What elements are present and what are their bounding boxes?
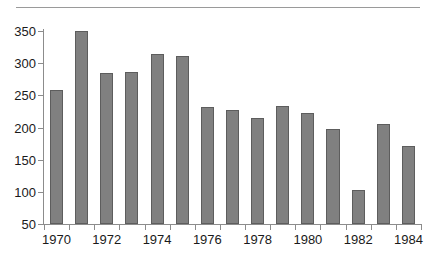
bar <box>352 190 365 224</box>
x-axis-tick <box>69 225 70 230</box>
bar <box>176 56 189 224</box>
x-axis-tick-label: 1978 <box>235 233 281 247</box>
bar-chart-figure: 50100150200250300350 1970197219741976197… <box>0 0 434 262</box>
y-axis-tick <box>38 95 43 96</box>
bar <box>201 107 214 224</box>
bar <box>125 72 138 224</box>
y-axis-tick-label: 250 <box>0 89 36 102</box>
y-axis-tick-label: 50 <box>0 218 36 231</box>
bar <box>276 106 289 224</box>
y-axis-tick-label: 100 <box>0 186 36 199</box>
x-axis-tick <box>270 225 271 230</box>
y-axis-tick-label-text: 50 <box>4 218 36 231</box>
x-axis-tick <box>145 225 146 230</box>
x-axis-tick-label: 1982 <box>335 233 381 247</box>
bar <box>151 54 164 224</box>
x-axis-tick-label: 1976 <box>184 233 230 247</box>
bar <box>75 31 88 224</box>
x-axis-tick-label: 1974 <box>134 233 180 247</box>
bar <box>402 146 415 224</box>
y-axis-tick-label: 200 <box>0 122 36 135</box>
x-axis-tick <box>421 225 422 230</box>
bar <box>301 113 314 224</box>
y-axis-tick-label-text: 350 <box>4 25 36 38</box>
y-axis-tick-label-text: 250 <box>4 89 36 102</box>
y-axis-tick-label: 150 <box>0 154 36 167</box>
y-axis-tick-label-text: 150 <box>4 154 36 167</box>
bar <box>50 90 63 224</box>
y-axis-tick <box>38 224 43 225</box>
y-axis-tick-label-text: 100 <box>4 186 36 199</box>
bar <box>251 118 264 224</box>
x-axis-tick-label: 1984 <box>385 233 431 247</box>
y-axis-tick <box>38 160 43 161</box>
y-axis-tick-label-text: 200 <box>4 122 36 135</box>
bar <box>326 129 339 224</box>
bar <box>377 124 390 224</box>
x-axis-tick <box>346 225 347 230</box>
x-axis-tick <box>396 225 397 230</box>
bar <box>226 110 239 224</box>
bar <box>100 73 113 224</box>
y-axis-tick-label: 350 <box>0 25 36 38</box>
x-axis-tick <box>119 225 120 230</box>
x-axis-tick <box>195 225 196 230</box>
x-axis-tick <box>245 225 246 230</box>
x-axis-tick <box>295 225 296 230</box>
x-axis-tick-label: 1972 <box>84 233 130 247</box>
y-axis-tick <box>38 63 43 64</box>
x-axis-tick <box>371 225 372 230</box>
x-axis-tick <box>94 225 95 230</box>
y-axis-line <box>43 29 44 225</box>
y-axis-tick <box>38 31 43 32</box>
plot-wrapper: 50100150200250300350 1970197219741976197… <box>0 0 434 262</box>
x-axis-tick <box>170 225 171 230</box>
y-axis-tick-label-text: 300 <box>4 57 36 70</box>
x-axis-tick <box>220 225 221 230</box>
x-axis-line <box>43 224 422 225</box>
x-axis-tick <box>44 225 45 230</box>
y-axis-tick <box>38 128 43 129</box>
x-axis-tick <box>320 225 321 230</box>
y-axis-tick <box>38 192 43 193</box>
x-axis-tick-label: 1970 <box>34 233 80 247</box>
x-axis-tick-label: 1980 <box>285 233 331 247</box>
y-axis-tick-label: 300 <box>0 57 36 70</box>
